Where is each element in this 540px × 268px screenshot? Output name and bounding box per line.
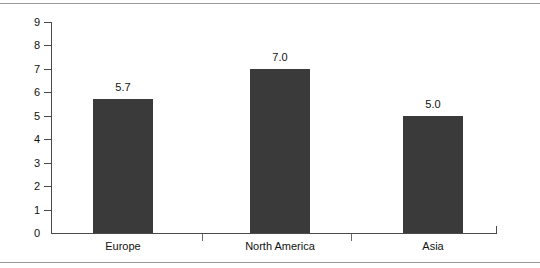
bar-asia[interactable] (403, 116, 463, 233)
category-label-north-america: North America (230, 240, 330, 252)
y-tick-6 (44, 92, 51, 93)
bar-value-asia: 5.0 (403, 99, 463, 110)
x-axis-line (51, 233, 497, 234)
y-tick-label-4: 4 (14, 134, 40, 145)
bar-value-europe: 5.7 (93, 82, 153, 93)
x-tick-boundary-1 (202, 234, 203, 241)
y-tick-label-9: 9 (14, 17, 40, 28)
y-tick-4 (44, 139, 51, 140)
bar-north-america[interactable] (250, 69, 310, 233)
y-tick-2 (44, 186, 51, 187)
y-tick-label-3: 3 (14, 158, 40, 169)
bar-chart: 9 8 7 6 5 4 3 2 1 0 5.7 7.0 5.0 Europe N… (0, 0, 540, 268)
category-label-asia: Asia (383, 240, 483, 252)
y-tick-8 (44, 45, 51, 46)
y-tick-label-2: 2 (14, 181, 40, 192)
page-rule-bottom (0, 262, 540, 263)
y-tick-label-0: 0 (14, 228, 40, 239)
x-axis-end-tick (496, 226, 497, 234)
y-tick-1 (44, 210, 51, 211)
y-tick-7 (44, 69, 51, 70)
y-axis-line (51, 22, 52, 234)
x-tick-boundary-2 (351, 234, 352, 241)
y-tick-9 (44, 22, 51, 23)
y-tick-label-5: 5 (14, 111, 40, 122)
y-tick-3 (44, 163, 51, 164)
bar-europe[interactable] (93, 99, 153, 233)
y-tick-5 (44, 116, 51, 117)
y-tick-label-1: 1 (14, 205, 40, 216)
category-label-europe: Europe (73, 240, 173, 252)
bar-value-north-america: 7.0 (250, 52, 310, 63)
y-tick-label-6: 6 (14, 87, 40, 98)
y-tick-label-7: 7 (14, 64, 40, 75)
page-rule-top (0, 3, 540, 4)
y-tick-label-8: 8 (14, 40, 40, 51)
